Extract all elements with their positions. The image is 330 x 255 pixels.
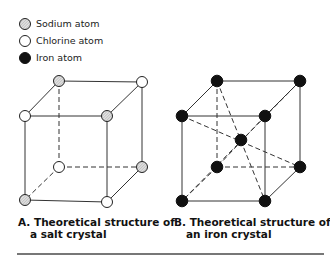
- legend-label-sodium: Sodium atom: [36, 18, 99, 29]
- iron-atom: [176, 195, 188, 207]
- sodium-atom: [20, 195, 31, 206]
- iron-atom: [176, 110, 188, 122]
- caption-b-line2: an iron crystal: [174, 228, 330, 240]
- sodium-atom: [54, 76, 65, 87]
- sodium-atom: [137, 162, 148, 173]
- chlorine-atom-legend-icon: [20, 36, 31, 47]
- caption-b-line1: B. Theoretical structure of: [174, 216, 330, 228]
- chlorine-atom: [54, 162, 65, 173]
- iron-atom: [259, 110, 271, 122]
- chlorine-atom: [102, 197, 113, 208]
- caption-a-line2: a salt crystal: [18, 228, 175, 240]
- salt-crystal-figure: [25, 81, 142, 202]
- chlorine-atom: [137, 77, 148, 88]
- sodium-atom: [102, 111, 113, 122]
- legend-icons: [20, 19, 31, 64]
- bottom-rule-divider: [17, 253, 324, 255]
- caption-b: B. Theoretical structure of an iron crys…: [174, 216, 330, 240]
- iron-atom: [211, 75, 223, 87]
- legend-label-chlorine: Chlorine atom: [36, 35, 103, 46]
- iron-atom: [259, 195, 271, 207]
- iron-atom-legend-icon: [20, 53, 31, 64]
- iron-atom: [211, 161, 223, 173]
- caption-a-line1: A. Theoretical structure of: [18, 216, 175, 228]
- legend-label-iron: Iron atom: [36, 52, 82, 63]
- caption-a: A. Theoretical structure of a salt cryst…: [18, 216, 175, 240]
- chlorine-atom: [20, 111, 31, 122]
- iron-atom: [294, 75, 306, 87]
- iron-atom-center: [235, 134, 247, 146]
- iron-atom: [294, 161, 306, 173]
- sodium-atom-legend-icon: [20, 19, 31, 30]
